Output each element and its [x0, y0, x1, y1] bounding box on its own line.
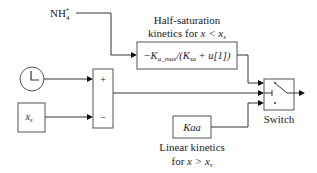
arrow-icon: [258, 100, 264, 106]
switch-block[interactable]: [264, 79, 294, 110]
nh4-wire: [76, 13, 134, 55]
half-saturation-caption-line2: kinetics for x < xs: [148, 27, 226, 41]
arrow-icon: [87, 114, 93, 120]
block-diagram: NH4+ Half-saturation kinetics for x < xs…: [0, 0, 317, 173]
arrow-icon: [87, 76, 93, 82]
clock-icon: [20, 67, 44, 91]
arrow-icon: [131, 52, 137, 58]
arrow-icon: [258, 80, 264, 86]
kaa-label: Kaa: [182, 122, 201, 133]
sum-plus-sign: +: [100, 74, 106, 85]
switch-contact-3: [274, 102, 276, 104]
clock-block[interactable]: [20, 67, 44, 91]
arrow-icon: [258, 90, 264, 96]
kaa-output-wire: [211, 103, 261, 127]
switch-label: Switch: [264, 113, 295, 125]
kaa-caption-line1: Linear kinetics: [159, 141, 225, 153]
sum-minus-sign: −: [100, 112, 106, 123]
half-saturation-caption-line1: Half-saturation: [154, 14, 221, 26]
kaa-caption-line2: for x > xs: [172, 155, 213, 169]
switch-box: [264, 79, 294, 110]
half-saturation-output-wire: [237, 55, 261, 83]
arrow-icon: [299, 90, 305, 96]
nh4-input-label: NH4+: [50, 6, 70, 22]
